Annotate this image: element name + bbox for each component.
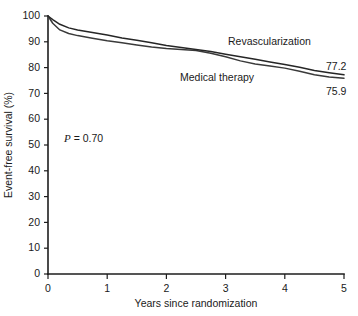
survival-chart: 0102030405060708090100 012345 Years sinc… [0, 0, 358, 316]
y-tick-label-10: 10 [28, 241, 40, 253]
x-tick-label-4: 4 [282, 282, 288, 294]
y-tick-label-30: 30 [28, 190, 40, 202]
y-axis-tick-labels: 0102030405060708090100 [22, 9, 40, 279]
x-tick-label-3: 3 [223, 282, 229, 294]
y-axis-title: Event-free survival (%) [2, 92, 14, 198]
series-label-medical-therapy: Medical therapy [180, 71, 255, 83]
endpoint-value-medical-therapy: 75.9 [326, 85, 347, 97]
series-label-revascularization: Revascularization [228, 35, 311, 47]
y-tick-label-60: 60 [28, 112, 40, 124]
y-tick-label-0: 0 [34, 267, 40, 279]
curve-medical-therapy [48, 16, 344, 78]
y-tick-label-40: 40 [28, 164, 40, 176]
endpoint-value-revascularization: 77.2 [326, 60, 347, 72]
y-tick-label-80: 80 [28, 61, 40, 73]
x-tick-label-1: 1 [104, 282, 110, 294]
y-tick-label-70: 70 [28, 87, 40, 99]
p-value-text: = 0.70 [71, 132, 104, 144]
x-axis-tick-labels: 012345 [45, 282, 347, 294]
p-value-annotation: P = 0.70 [63, 132, 103, 144]
svg-text:P = 0.70: P = 0.70 [63, 132, 103, 144]
x-axis-group: 012345 [45, 274, 347, 294]
y-axis-group: 0102030405060708090100 [22, 9, 48, 279]
y-tick-label-90: 90 [28, 35, 40, 47]
x-axis-title: Years since randomization [135, 297, 258, 309]
x-tick-label-2: 2 [163, 282, 169, 294]
chart-canvas: 0102030405060708090100 012345 Years sinc… [0, 0, 358, 316]
y-tick-label-100: 100 [22, 9, 40, 21]
x-tick-label-5: 5 [341, 282, 347, 294]
y-tick-label-50: 50 [28, 138, 40, 150]
series-curves [48, 16, 344, 78]
x-tick-label-0: 0 [45, 282, 51, 294]
y-tick-label-20: 20 [28, 216, 40, 228]
